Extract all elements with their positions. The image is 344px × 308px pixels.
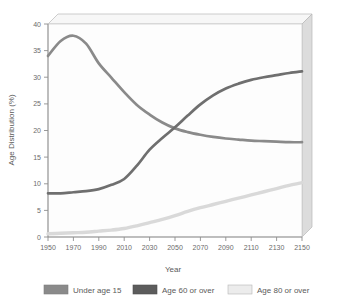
legend-label: Under age 15 — [73, 286, 122, 295]
y-tick-label: 30 — [33, 74, 41, 81]
y-tick-label: 0 — [37, 234, 41, 241]
legend-swatch — [133, 285, 157, 294]
legend-item-age-80-or-over: Age 80 or over — [228, 285, 310, 295]
x-axis-title: Year — [165, 265, 182, 274]
x-tick-label: 2130 — [269, 244, 285, 251]
legend-label: Age 80 or over — [257, 286, 310, 295]
legend-item-age-60-or-over: Age 60 or over — [133, 285, 215, 295]
x-tick-label: 2050 — [167, 244, 183, 251]
x-tick-label: 2070 — [193, 244, 209, 251]
x-tick-label: 1990 — [91, 244, 107, 251]
x-tick-label: 2010 — [116, 244, 132, 251]
x-tick-label: 2150 — [294, 244, 310, 251]
x-axis-ticks — [48, 237, 302, 241]
y-axis-tick-labels: 0 5 10 15 20 25 30 35 40 — [33, 21, 41, 241]
legend-swatch — [228, 285, 252, 294]
legend-label: Age 60 or over — [162, 286, 215, 295]
chart-legend: Under age 15 Age 60 or over Age 80 or ov… — [44, 285, 310, 295]
chart-figure: 0 5 10 15 20 25 30 35 40 1950 1970 — [0, 0, 344, 308]
y-tick-label: 20 — [33, 127, 41, 134]
x-tick-label: 1950 — [40, 244, 56, 251]
x-tick-label: 2110 — [244, 244, 259, 251]
y-tick-label: 15 — [33, 154, 41, 161]
y-tick-label: 35 — [33, 47, 41, 54]
y-tick-label: 40 — [33, 21, 41, 28]
legend-item-under-age-15: Under age 15 — [44, 285, 122, 295]
right-wall-panel — [302, 14, 312, 237]
y-tick-label: 5 — [37, 207, 41, 214]
y-axis-title: Age Distribution (%) — [7, 94, 16, 165]
top-wall-panel — [48, 14, 312, 24]
x-tick-label: 1970 — [66, 244, 82, 251]
plot-background — [48, 24, 302, 237]
x-tick-label: 2030 — [142, 244, 158, 251]
x-tick-label: 2090 — [218, 244, 234, 251]
legend-swatch — [44, 285, 68, 294]
population-age-distribution-line-chart: 0 5 10 15 20 25 30 35 40 1950 1970 — [0, 0, 344, 308]
x-axis-tick-labels: 1950 1970 1990 2010 2030 2050 2070 2090 … — [40, 244, 310, 251]
y-tick-label: 25 — [33, 100, 41, 107]
y-tick-label: 10 — [33, 180, 41, 187]
